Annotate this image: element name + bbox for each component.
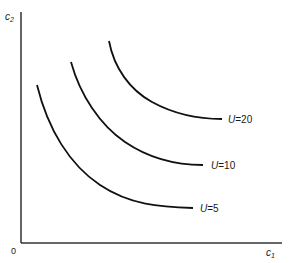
origin-label: 0 — [11, 246, 16, 256]
label-u5: U=5 — [200, 203, 219, 214]
curve-u5 — [37, 85, 193, 208]
label-u10: U=10 — [211, 160, 236, 171]
curve-u20 — [109, 41, 222, 119]
label-u20: U=20 — [228, 114, 253, 125]
y-axis-label: c2 — [5, 11, 14, 23]
x-axis-label: c1 — [266, 247, 275, 259]
indifference-curve-diagram: c2 c1 0 U=20 U=10 U=5 — [0, 0, 292, 263]
